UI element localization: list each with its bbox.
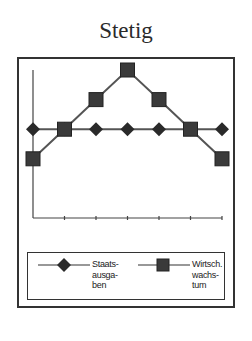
legend-label-wirtschaftswachstum: Wirtsch. wachs- tum bbox=[192, 259, 222, 291]
diamond-marker-icon bbox=[215, 122, 229, 136]
square-marker-icon bbox=[157, 259, 169, 271]
square-marker-icon bbox=[215, 152, 229, 166]
legend: Staats- ausga- ben Wirtsch. wachs- tum bbox=[27, 252, 225, 300]
square-marker-icon bbox=[26, 152, 40, 166]
diamond-marker-icon bbox=[26, 122, 40, 136]
square-marker-icon bbox=[89, 93, 103, 107]
diamond-marker-icon bbox=[57, 258, 71, 272]
square-marker-icon bbox=[58, 122, 72, 136]
square-marker-icon bbox=[152, 93, 166, 107]
square-marker-icon bbox=[184, 122, 198, 136]
diamond-marker-icon bbox=[121, 122, 135, 136]
diamond-marker-icon bbox=[152, 122, 166, 136]
series-lines bbox=[26, 63, 229, 166]
square-marker-icon bbox=[121, 63, 135, 77]
axes bbox=[33, 70, 222, 220]
legend-label-staatsausgaben: Staats- ausga- ben bbox=[92, 259, 118, 291]
diamond-marker-icon bbox=[89, 122, 103, 136]
